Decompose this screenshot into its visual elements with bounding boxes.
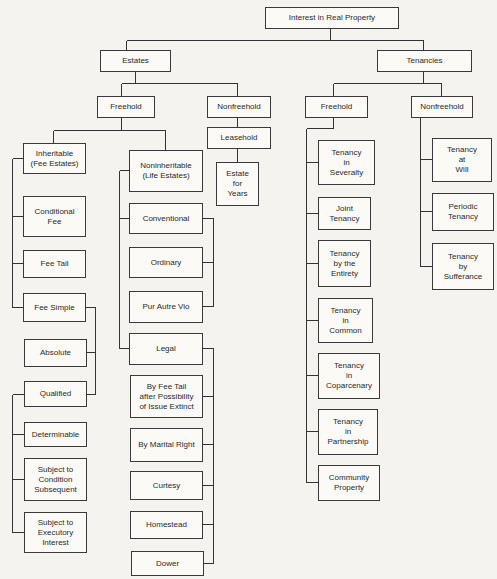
node-by-fee-tail: By Fee Tail after Possibility of Issue E… (130, 375, 203, 418)
node-tenancy-in-partnership: Tenancy in Partnership (318, 409, 378, 455)
node-fee-simple: Fee Simple (23, 293, 86, 322)
node-tenancy-in-coparcenary: Tenancy in Coparcenary (318, 353, 380, 399)
node-fee-tail: Fee Tail (23, 250, 86, 278)
node-community-property: Community Property (318, 465, 380, 501)
node-curtesy: Curtesy (130, 471, 203, 500)
node-by-marital-right: By Marital Right (130, 428, 203, 462)
node-dower: Dower (131, 551, 204, 576)
node-determinable: Determinable (24, 422, 87, 447)
node-pur-autre-vio: Pur Autre Vio (129, 291, 203, 323)
node-conventional: Conventional (129, 203, 203, 234)
node-tenancy-in-common: Tenancy in Common (318, 298, 373, 343)
node-tenancies-freehold: Freehold (305, 96, 368, 118)
node-estates-nonfreehold: Nonfreehold (207, 96, 271, 118)
node-absolute: Absolute (24, 339, 87, 367)
real-property-interest-tree: Interest in Real Property Estates Tenanc… (0, 0, 497, 579)
node-tenancy-by-the-entirety: Tenancy by the Entirety (318, 240, 371, 287)
node-leasehold: Leasehold (207, 127, 271, 149)
node-joint-tenancy: Joint Tenancy (318, 197, 371, 230)
node-noninheritable: Noninheritable (Life Estates) (129, 150, 203, 192)
node-subject-to-condition-subsequent: Subject to Condition Subsequent (24, 458, 87, 501)
node-qualified: Qualified (24, 381, 87, 407)
node-interest-in-real-property: Interest in Real Property (265, 7, 399, 29)
node-tenancy-at-will: Tenancy at Will (432, 138, 492, 182)
node-inheritable: Inheritable (Fee Estates) (23, 143, 86, 174)
node-periodic-tenancy: Periodic Tenancy (432, 193, 494, 231)
node-estates: Estates (100, 50, 171, 72)
node-ordinary: Ordinary (129, 247, 203, 278)
node-subject-to-executory-interest: Subject to Executory Interest (24, 512, 87, 553)
node-homestead: Homestead (130, 511, 203, 539)
node-tenancy-by-sufferance: Tenancy by Sufferance (432, 243, 494, 290)
node-tenancies: Tenancies (377, 50, 472, 72)
node-tenancies-nonfreehold: Nonfreehold (411, 96, 473, 118)
node-legal: Legal (129, 333, 203, 365)
node-tenancy-in-severalty: Tenancy in Severalty (318, 140, 375, 185)
node-estate-for-years: Estate for Years (216, 162, 259, 206)
node-conditional-fee: Conditional Fee (23, 196, 86, 237)
node-estates-freehold: Freehold (97, 96, 155, 118)
